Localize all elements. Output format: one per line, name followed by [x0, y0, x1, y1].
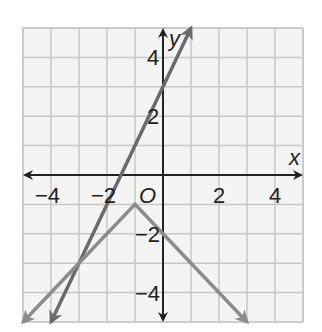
x-tick-label: 2	[213, 183, 225, 208]
x-tick-label: −2	[91, 183, 116, 208]
x-tick-label: −4	[35, 183, 60, 208]
coordinate-plane: −4−22442−2−4Oxy	[0, 0, 322, 332]
x-axis-label: x	[288, 145, 301, 170]
origin-label: O	[139, 183, 156, 208]
x-tick-label: 4	[269, 183, 281, 208]
y-tick-label: 2	[147, 104, 159, 129]
y-tick-label: 4	[147, 45, 159, 70]
y-axis-label: y	[167, 26, 182, 51]
y-tick-label: −4	[135, 281, 160, 306]
y-tick-label: −2	[135, 222, 160, 247]
